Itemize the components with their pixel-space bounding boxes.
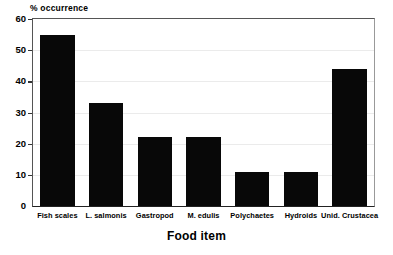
plot-area bbox=[33, 19, 374, 206]
y-axis-tick-label: 10 bbox=[4, 170, 26, 180]
bar bbox=[186, 137, 220, 206]
plot-frame bbox=[32, 18, 375, 207]
gridline bbox=[33, 113, 374, 114]
gridline bbox=[33, 81, 374, 82]
y-axis-tick-label: 30 bbox=[4, 108, 26, 118]
y-axis-title: % occurrence bbox=[30, 2, 88, 14]
bar bbox=[332, 69, 366, 206]
y-axis-tick-label: 0 bbox=[4, 201, 26, 211]
bar bbox=[235, 172, 269, 206]
y-axis-tick-label: 60 bbox=[4, 14, 26, 24]
y-axis-tick-label: 50 bbox=[4, 45, 26, 55]
y-axis-tick-label: 20 bbox=[4, 139, 26, 149]
gridline bbox=[33, 50, 374, 51]
bar bbox=[138, 137, 172, 206]
x-axis-tick-label: Unid. Crustacea bbox=[319, 211, 380, 220]
bar bbox=[284, 172, 318, 206]
y-axis-tick-label: 40 bbox=[4, 76, 26, 86]
bar-chart-figure: % occurrence 0102030405060 Fish scalesL.… bbox=[0, 0, 393, 255]
bar bbox=[40, 35, 74, 206]
bar bbox=[89, 103, 123, 206]
x-axis-title: Food item bbox=[0, 229, 393, 243]
